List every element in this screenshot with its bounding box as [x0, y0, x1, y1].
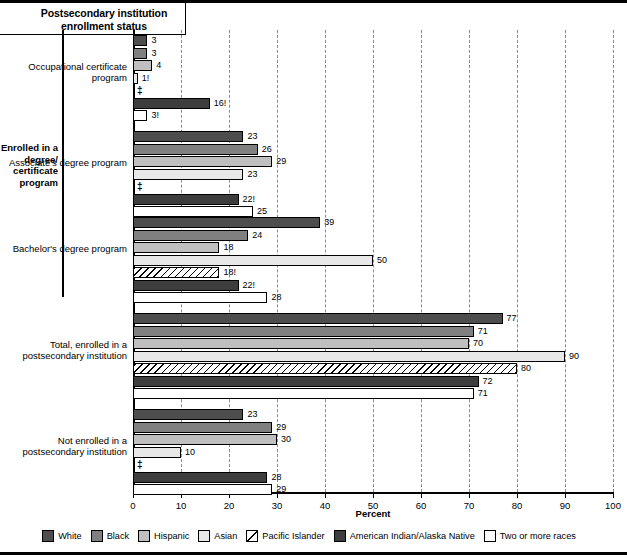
white-swatch: [484, 530, 496, 542]
bar-value-label: 10: [185, 447, 195, 458]
legend-label: Asian: [214, 531, 237, 541]
bar-value-label: 29: [276, 422, 286, 433]
bar: [133, 144, 258, 155]
bar-value-label: 71: [478, 326, 488, 337]
bar-value-label: 3: [151, 35, 156, 46]
medium-gray-swatch: [91, 530, 103, 542]
legend-label: Hispanic: [154, 531, 189, 541]
bar: [133, 156, 272, 167]
legend-item[interactable]: American Indian/Alaska Native: [334, 530, 475, 542]
tick-mark-60: [421, 492, 422, 498]
bar-value-label: 23: [247, 409, 257, 420]
bar: [133, 131, 243, 142]
gridline-80: [517, 30, 518, 492]
bar-value-label: 4: [156, 60, 161, 71]
light-gray-swatch: [138, 530, 150, 542]
darkest-gray-swatch: [334, 530, 346, 542]
tick-label-90: 90: [560, 500, 571, 511]
bar-value-label: 3: [151, 48, 156, 59]
bar-value-label: 22!: [243, 194, 256, 205]
chart-legend: WhiteBlackHispanicAsianPacific IslanderA…: [0, 526, 627, 546]
diagonal-hatch-swatch: [246, 530, 258, 542]
tick-label-100: 100: [605, 500, 621, 511]
tick-label-70: 70: [464, 500, 475, 511]
bar: [133, 363, 517, 374]
bar: [133, 326, 474, 337]
category-label: Bachelor's degree program: [5, 243, 127, 255]
plot-area: 0102030405060708090100 3341!‡16!3!232629…: [133, 30, 613, 492]
gridline-100: [613, 30, 614, 492]
tick-mark-90: [565, 492, 566, 498]
bar: [133, 169, 243, 180]
bar-value-label: 1!: [142, 73, 150, 84]
bar: [133, 280, 239, 291]
bar: [133, 388, 474, 399]
bar: [133, 313, 503, 324]
bar-value-label: 16!: [214, 98, 227, 109]
bar: [133, 351, 565, 362]
bar: [133, 484, 272, 495]
tick-label-50: 50: [368, 500, 379, 511]
bar-value-label: 90: [569, 351, 579, 362]
bar-value-label: 70: [473, 338, 483, 349]
bar-value-label: 71: [478, 388, 488, 399]
legend-label: White: [58, 531, 82, 541]
bar: [133, 376, 479, 387]
very-light-gray-swatch: [198, 530, 210, 542]
suppressed-marker: ‡: [137, 459, 143, 470]
tick-mark-50: [373, 492, 374, 498]
bar: [133, 472, 267, 483]
legend-label: Black: [107, 531, 129, 541]
bar-value-label: 24: [252, 230, 262, 241]
gridline-50: [373, 30, 374, 492]
suppressed-marker: ‡: [137, 85, 143, 96]
tick-label-80: 80: [512, 500, 523, 511]
bar-value-label: 28: [271, 472, 281, 483]
tick-label-20: 20: [224, 500, 235, 511]
bar: [133, 217, 320, 228]
legend-label: American Indian/Alaska Native: [350, 531, 475, 541]
bar: [133, 230, 248, 241]
chart-figure: Postsecondary institution enrollment sta…: [0, 0, 627, 557]
gridline-70: [469, 30, 470, 492]
bar: [133, 447, 181, 458]
bar: [133, 35, 147, 46]
bar-value-label: 50: [377, 255, 387, 266]
bar: [133, 98, 210, 109]
bottom-rule: [0, 552, 627, 555]
category-label: Associate's degree program: [5, 157, 127, 169]
bar-value-label: 22!: [243, 280, 256, 291]
bar-value-label: 3!: [151, 110, 159, 121]
category-label: Occupational certificate program: [5, 61, 127, 84]
bar-value-label: 23: [247, 169, 257, 180]
bar: [133, 267, 219, 278]
legend-item[interactable]: Asian: [198, 530, 237, 542]
legend-item[interactable]: Two or more races: [484, 530, 576, 542]
legend-label: Two or more races: [500, 531, 576, 541]
category-label: Not enrolled in a postsecondary institut…: [5, 435, 127, 458]
legend-item[interactable]: Hispanic: [138, 530, 189, 542]
bar: [133, 48, 147, 59]
bar-value-label: 72: [483, 376, 493, 387]
legend-label: Pacific Islander: [262, 531, 324, 541]
bar-value-label: 77: [507, 313, 517, 324]
bar-value-label: 18: [223, 242, 233, 253]
legend-item[interactable]: Black: [91, 530, 129, 542]
bar: [133, 242, 219, 253]
bar: [133, 73, 138, 84]
bar-value-label: 18!: [223, 267, 236, 278]
bar: [133, 292, 267, 303]
legend-item[interactable]: Pacific Islander: [246, 530, 324, 542]
bar: [133, 255, 373, 266]
category-label: Total, enrolled in a postsecondary insti…: [5, 339, 127, 362]
tick-mark-40: [325, 492, 326, 498]
bar: [133, 194, 239, 205]
bar: [133, 409, 243, 420]
bar: [133, 338, 469, 349]
tick-mark-100: [613, 492, 614, 498]
suppressed-marker: ‡: [137, 181, 143, 192]
legend-item[interactable]: White: [42, 530, 82, 542]
bar-value-label: 39: [324, 217, 334, 228]
bar-value-label: 28: [271, 292, 281, 303]
gridline-60: [421, 30, 422, 492]
